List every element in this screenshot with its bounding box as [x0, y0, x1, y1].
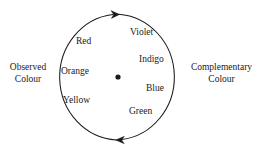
observed-colour-label-line1: Observed	[0, 62, 56, 74]
center-dot-icon	[115, 74, 120, 79]
circle-outline-left-arc	[60, 14, 117, 139]
spectrum-label-violet: Violet	[130, 27, 153, 38]
colour-wheel-figure: Observed Colour Complementary Colour Red…	[0, 0, 263, 152]
bottom-arrow-icon	[116, 136, 125, 144]
spectrum-label-yellow: Yellow	[63, 95, 90, 106]
complementary-colour-label-line1: Complementary	[180, 62, 263, 74]
spectrum-label-green: Green	[129, 106, 152, 117]
spectrum-label-red: Red	[76, 36, 91, 47]
spectrum-label-blue: Blue	[146, 83, 164, 94]
complementary-colour-label-line2: Colour	[180, 74, 263, 86]
circle-group	[60, 11, 175, 144]
complementary-colour-label: Complementary Colour	[180, 62, 263, 85]
spectrum-label-orange: Orange	[61, 66, 89, 77]
observed-colour-label-line2: Colour	[0, 74, 56, 86]
observed-colour-label: Observed Colour	[0, 62, 56, 85]
spectrum-label-indigo: Indigo	[139, 54, 164, 65]
